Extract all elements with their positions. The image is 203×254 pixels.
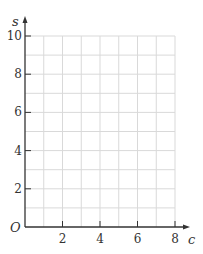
- y-axis-arrow-icon: [23, 16, 28, 23]
- y-tick-label: 10: [7, 29, 22, 43]
- grid-lines: [25, 36, 175, 227]
- x-axis-label: c: [188, 232, 196, 247]
- x-axis-arrow-icon: [183, 225, 190, 230]
- x-tick-label: 8: [171, 232, 179, 246]
- x-tick-label: 6: [134, 232, 142, 246]
- y-tick-label: 8: [14, 67, 22, 81]
- y-tick-label: 6: [14, 105, 22, 119]
- tick-labels: 2468246810: [7, 29, 179, 246]
- x-tick-label: 2: [59, 232, 67, 246]
- y-tick-label: 2: [14, 182, 22, 196]
- axes: [23, 16, 191, 230]
- empty-coordinate-grid: 2468246810 s c O: [0, 0, 203, 254]
- y-axis-label: s: [12, 14, 19, 29]
- origin-label: O: [10, 220, 21, 235]
- x-tick-label: 4: [96, 232, 104, 246]
- y-tick-label: 4: [14, 144, 22, 158]
